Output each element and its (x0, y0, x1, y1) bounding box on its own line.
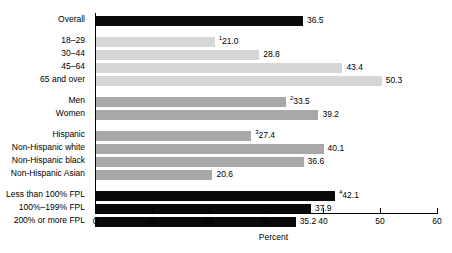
bar (95, 76, 382, 86)
bar-value-number: 33.5 (293, 96, 310, 106)
bar-value-label: 20.6 (216, 169, 233, 180)
bar-row: 30–4428.8 (0, 50, 452, 60)
x-axis-tick (266, 208, 267, 214)
bar (95, 157, 304, 167)
y-axis-spine (95, 13, 96, 214)
bar-value-number: 39.2 (322, 109, 339, 119)
bar-value-number: 36.6 (308, 156, 325, 166)
bar (95, 131, 251, 141)
category-label: 100%–199% FPL (0, 202, 85, 213)
plot-area: Overall36.518–29121.030–4428.845–6443.46… (0, 0, 452, 253)
x-axis-tick (209, 208, 210, 214)
x-axis-tick-label: 0 (93, 216, 98, 227)
x-axis-tick-label: 40 (318, 216, 327, 227)
x-axis-tick (437, 208, 438, 214)
category-label: 18–29 (0, 35, 85, 46)
bar-row: Men233.5 (0, 97, 452, 107)
x-axis-tick-label: 30 (261, 216, 270, 227)
bar-row: 45–6443.4 (0, 63, 452, 73)
x-axis-tick (152, 208, 153, 214)
bar-row: Non-Hispanic black36.6 (0, 157, 452, 167)
x-axis-tick-label: 50 (375, 216, 384, 227)
bar-value-label: 121.0 (219, 36, 239, 47)
category-label: 200% or more FPL (0, 215, 85, 226)
bar-value-number: 36.5 (307, 15, 324, 25)
bar-value-label: 36.5 (307, 15, 324, 26)
bar-value-label: 43.4 (346, 62, 363, 73)
bar-value-number: 27.4 (259, 130, 276, 140)
bar-value-number: 43.4 (346, 62, 363, 72)
bar (95, 50, 259, 60)
bar-row: Hispanic327.4 (0, 131, 452, 141)
bar-chart: Overall36.518–29121.030–4428.845–6443.46… (0, 0, 452, 253)
bar-value-number: 35.2 (300, 216, 317, 226)
bar-value-label: 50.3 (386, 75, 403, 86)
category-label: 45–64 (0, 61, 85, 72)
category-label: 65 and over (0, 74, 85, 85)
category-label: Non-Hispanic white (0, 142, 85, 153)
bar-value-label: 36.6 (308, 156, 325, 167)
bar-value-label: 28.8 (263, 49, 280, 60)
bar (95, 110, 318, 120)
bar (95, 16, 303, 26)
bar (95, 191, 335, 201)
bar (95, 170, 212, 180)
x-axis-tick (380, 208, 381, 214)
bar-value-label: 39.2 (322, 109, 339, 120)
bar-value-label: 40.1 (328, 143, 345, 154)
category-label: Less than 100% FPL (0, 189, 85, 200)
bar-row: 65 and over50.3 (0, 76, 452, 86)
bar (95, 37, 215, 47)
bar-value-number: 40.1 (328, 143, 345, 153)
bar-row: Women39.2 (0, 110, 452, 120)
bar-value-number: 42.1 (342, 190, 359, 200)
bar-value-number: 28.8 (263, 49, 280, 59)
category-label: Overall (0, 14, 85, 25)
category-label: 30–44 (0, 48, 85, 59)
bar-value-number: 20.6 (216, 169, 233, 179)
category-label: Women (0, 108, 85, 119)
category-label: Non-Hispanic black (0, 155, 85, 166)
bar-value-label: 442.1 (339, 190, 359, 201)
bar-value-label: 35.2 (300, 216, 317, 227)
x-axis-tick-label: 10 (147, 216, 156, 227)
bar (95, 97, 286, 107)
bar-value-label: 233.5 (290, 96, 310, 107)
category-label: Hispanic (0, 129, 85, 140)
x-axis-title-wrap: Percent (0, 232, 452, 242)
bar (95, 63, 342, 73)
bar-row: Non-Hispanic white40.1 (0, 144, 452, 154)
bar (95, 144, 324, 154)
x-axis-title: Percent (259, 232, 288, 242)
bar-value-number: 50.3 (386, 75, 403, 85)
bar-value-number: 21.0 (222, 36, 239, 46)
bar-row: Less than 100% FPL442.1 (0, 191, 452, 201)
bar-row: Overall36.5 (0, 16, 452, 26)
category-label: Men (0, 95, 85, 106)
x-axis-tick-label: 20 (204, 216, 213, 227)
bar-row: 18–29121.0 (0, 37, 452, 47)
x-axis-tick-label: 60 (432, 216, 441, 227)
bar-row: Non-Hispanic Asian20.6 (0, 170, 452, 180)
category-label: Non-Hispanic Asian (0, 168, 85, 179)
x-axis-tick (323, 208, 324, 214)
bar-value-label: 327.4 (255, 130, 275, 141)
x-axis-tick (95, 208, 96, 214)
